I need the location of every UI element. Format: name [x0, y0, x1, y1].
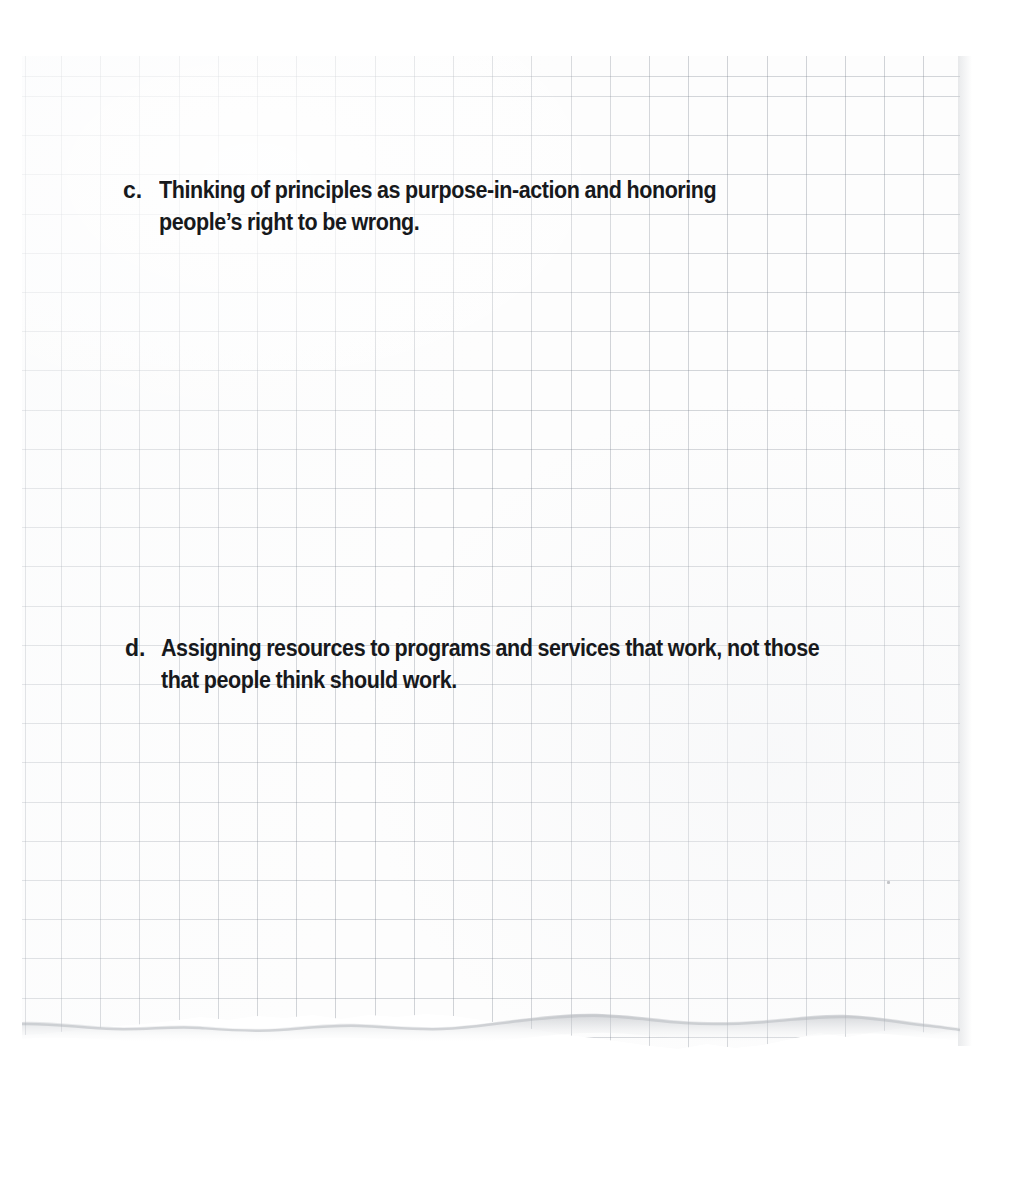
note-item-c-text: Thinking of principles as purpose-in-act… [159, 174, 716, 238]
paper-right-edge-shadow [958, 56, 972, 1046]
note-item-c-marker: c. [123, 174, 159, 206]
note-item-d: d. Assigning resources to programs and s… [125, 632, 905, 696]
scan-speck [887, 881, 890, 884]
graph-paper-sheet: c. Thinking of principles as purpose-in-… [22, 56, 960, 1056]
note-item-d-text: Assigning resources to programs and serv… [161, 632, 819, 696]
note-item-c: c. Thinking of principles as purpose-in-… [123, 174, 823, 238]
scanned-page: c. Thinking of principles as purpose-in-… [0, 0, 1011, 1183]
note-item-d-marker: d. [125, 632, 161, 664]
